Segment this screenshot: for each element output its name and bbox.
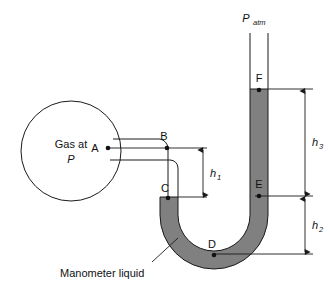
- gas-label-line1: Gas at: [55, 138, 87, 150]
- dimension-label-h1-subscript: 1: [217, 173, 221, 182]
- manometer-figure: Gas at P P atm A B C D E F h 1 h 3 h 2 M…: [0, 0, 331, 293]
- point-label-c: C: [161, 182, 169, 194]
- point-markers: [106, 88, 262, 258]
- dimension-label-h1: h: [210, 167, 216, 179]
- point-label-f: F: [256, 72, 263, 84]
- point-marker-d: [212, 253, 217, 258]
- point-label-d: D: [208, 238, 216, 250]
- point-label-a: A: [91, 142, 99, 154]
- gas-bulb: [21, 101, 121, 201]
- dimension-label-h2-subscript: 2: [318, 225, 324, 234]
- gas-label-pressure: P: [67, 153, 75, 165]
- dimension-label-h3-subscript: 3: [319, 142, 324, 151]
- p-atm-subscript: atm: [253, 18, 266, 27]
- p-atm-label: P: [242, 12, 250, 24]
- dimension-label-h2: h: [312, 219, 318, 231]
- manometer-diagram-svg: Gas at P P atm A B C D E F h 1 h 3 h 2 M…: [0, 0, 331, 293]
- dimension-label-h3: h: [312, 136, 318, 148]
- point-label-b: B: [160, 130, 167, 142]
- point-marker-f: [257, 88, 262, 93]
- point-marker-c: [166, 196, 171, 201]
- point-label-e: E: [255, 178, 262, 190]
- manometer-liquid-caption: Manometer liquid: [60, 267, 144, 279]
- point-marker-b: [165, 146, 170, 151]
- point-marker-a: [106, 146, 111, 151]
- point-marker-e: [257, 194, 262, 199]
- tube-outlines: [21, 33, 268, 201]
